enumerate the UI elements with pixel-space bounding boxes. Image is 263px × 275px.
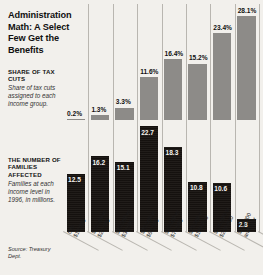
bar-label-share-of-tax-cuts: 0.2% [67, 110, 82, 117]
bar-share-of-tax-cuts [115, 108, 133, 120]
bar-label-share-of-tax-cuts: 28.1% [238, 7, 257, 14]
bar-share-of-tax-cuts [237, 16, 255, 120]
left-label-column: Administration Math: A Select Few Get th… [8, 10, 58, 56]
bar-label-families-affected: 12.5 [68, 176, 81, 183]
plot-area: 0.2%12.51.3%16.23.3%15.111.6%22.716.4%18… [64, 4, 259, 232]
bar-label-share-of-tax-cuts: 11.6% [140, 68, 158, 75]
section-description-share-of-tax-cuts: Share of tax cuts assigned to each incom… [8, 84, 60, 109]
bar-label-families-affected: 15.1 [117, 164, 130, 171]
source-note: Source: Treasury Dept. [8, 246, 60, 261]
bar-share-of-tax-cuts [140, 77, 158, 120]
bar-label-share-of-tax-cuts: 16.4% [165, 50, 184, 57]
bar-share-of-tax-cuts [91, 115, 109, 120]
chart-column-edge [258, 4, 259, 232]
section-heading-families-affected: THE NUMBER OF FAMILIES AFFECTED [8, 156, 64, 178]
axis-tick [258, 231, 263, 251]
x-axis-labels: 0 to$10,000$10,000 to$20,000$20,000 to$3… [64, 232, 263, 275]
bar-share-of-tax-cuts [67, 119, 85, 121]
bar-share-of-tax-cuts [188, 64, 206, 120]
bar-label-families-affected: 10.8 [190, 184, 203, 191]
bar-share-of-tax-cuts [164, 59, 182, 120]
bar-label-share-of-tax-cuts: 15.2% [189, 54, 208, 61]
page-title: Administration Math: A Select Few Get th… [8, 10, 70, 56]
bar-share-of-tax-cuts [213, 33, 231, 120]
bar-label-share-of-tax-cuts: 1.3% [91, 106, 106, 113]
bar-label-share-of-tax-cuts: 3.3% [116, 98, 131, 105]
bar-label-families-affected: 22.7 [141, 129, 154, 136]
section-heading-share-of-tax-cuts: SHARE OF TAX CUTS [8, 68, 64, 83]
bar-label-families-affected: 16.2 [92, 159, 105, 166]
chart-figure: Administration Math: A Select Few Get th… [0, 0, 263, 275]
section-description-families-affected: Families at each income level in 1996, i… [8, 180, 60, 205]
bar-label-families-affected: 10.6 [214, 185, 227, 192]
bar-label-families-affected: 18.3 [166, 149, 179, 156]
bar-label-share-of-tax-cuts: 23.4% [213, 24, 232, 31]
